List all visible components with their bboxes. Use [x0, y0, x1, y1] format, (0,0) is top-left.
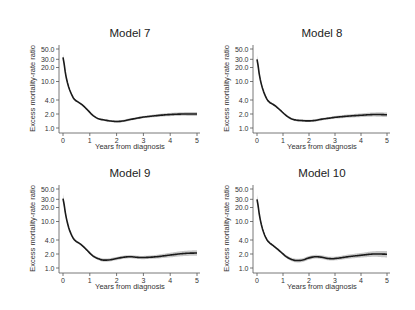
x-axis-label: Years from diagnosis: [287, 142, 357, 151]
y-tick-label: 30.0: [235, 56, 249, 63]
x-tick-label: 0: [255, 137, 259, 144]
x-tick-label: 5: [195, 137, 199, 144]
panel-model-9: Model 91.02.04.010.020.030.050.0012345Ye…: [28, 167, 200, 291]
y-tick-label: 10.0: [41, 218, 55, 225]
y-axis-label: Excess mortality-rate ratio: [222, 185, 231, 272]
y-tick-label: 50.0: [41, 46, 55, 53]
y-tick-label: 50.0: [235, 186, 249, 193]
estimate-line: [257, 199, 387, 260]
y-tick-label: 10.0: [41, 78, 55, 85]
y-tick-label: 2.0: [45, 251, 55, 258]
estimate-line: [63, 199, 197, 261]
x-tick-label: 5: [385, 277, 389, 284]
y-axis-label: Excess mortality-rate ratio: [28, 45, 37, 132]
panel-title: Model 9: [110, 167, 151, 179]
confidence-band: [63, 194, 197, 262]
panel-model-10: Model 101.02.04.010.020.030.050.0012345Y…: [222, 167, 390, 291]
x-tick-label: 1: [281, 137, 285, 144]
y-tick-label: 30.0: [235, 196, 249, 203]
estimate-line: [257, 59, 387, 121]
y-tick-label: 4.0: [45, 97, 55, 104]
y-tick-label: 10.0: [235, 218, 249, 225]
x-tick-label: 1: [88, 277, 92, 284]
confidence-band: [257, 195, 387, 263]
y-tick-label: 20.0: [41, 64, 55, 71]
y-tick-label: 2.0: [239, 111, 249, 118]
y-tick-label: 2.0: [239, 251, 249, 258]
y-tick-label: 50.0: [235, 46, 249, 53]
y-tick-label: 1.0: [239, 265, 249, 272]
x-tick-label: 4: [168, 137, 172, 144]
x-tick-label: 5: [195, 277, 199, 284]
panel-title: Model 10: [298, 167, 345, 179]
estimate-line: [63, 57, 197, 121]
chart-grid: Model 71.02.04.010.020.030.050.0012345Ye…: [0, 0, 415, 310]
panel-model-8: Model 81.02.04.010.020.030.050.0012345Ye…: [222, 27, 390, 151]
y-tick-label: 20.0: [235, 64, 249, 71]
x-tick-label: 0: [255, 277, 259, 284]
y-tick-label: 30.0: [41, 196, 55, 203]
figure: Model 71.02.04.010.020.030.050.0012345Ye…: [0, 0, 415, 310]
y-tick-label: 4.0: [45, 237, 55, 244]
x-axis-label: Years from diagnosis: [95, 142, 165, 151]
y-tick-label: 1.0: [45, 265, 55, 272]
panel-model-7: Model 71.02.04.010.020.030.050.0012345Ye…: [28, 27, 200, 151]
y-tick-label: 2.0: [45, 111, 55, 118]
x-tick-label: 4: [359, 277, 363, 284]
y-axis-label: Excess mortality-rate ratio: [222, 45, 231, 132]
x-tick-label: 5: [385, 137, 389, 144]
y-tick-label: 30.0: [41, 56, 55, 63]
x-axis-label: Years from diagnosis: [287, 282, 357, 291]
x-tick-label: 4: [359, 137, 363, 144]
y-axis-label: Excess mortality-rate ratio: [28, 185, 37, 272]
panel-title: Model 8: [302, 27, 343, 39]
y-tick-label: 20.0: [41, 204, 55, 211]
x-tick-label: 4: [168, 277, 172, 284]
panel-title: Model 7: [110, 27, 151, 39]
confidence-band: [257, 55, 387, 122]
x-axis-label: Years from diagnosis: [95, 282, 165, 291]
y-tick-label: 4.0: [239, 97, 249, 104]
x-tick-label: 0: [61, 137, 65, 144]
y-tick-label: 50.0: [41, 186, 55, 193]
y-tick-label: 1.0: [45, 125, 55, 132]
y-tick-label: 20.0: [235, 204, 249, 211]
confidence-band: [63, 54, 197, 123]
y-tick-label: 4.0: [239, 237, 249, 244]
x-tick-label: 0: [61, 277, 65, 284]
x-tick-label: 1: [281, 277, 285, 284]
x-tick-label: 1: [88, 137, 92, 144]
y-tick-label: 1.0: [239, 125, 249, 132]
y-tick-label: 10.0: [235, 78, 249, 85]
